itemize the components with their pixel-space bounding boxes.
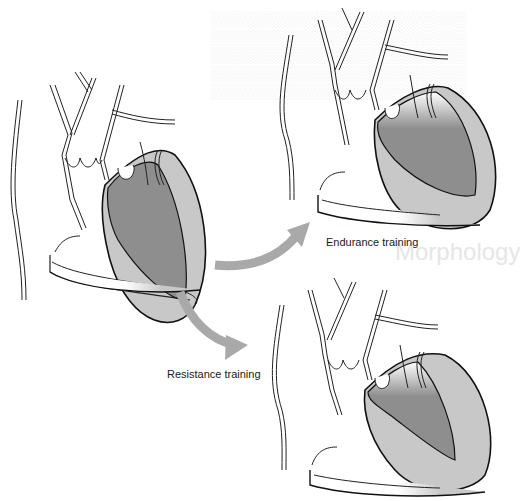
heart-endurance <box>280 8 496 229</box>
heart-resistance <box>272 278 490 496</box>
curved-arrow-up-right-icon <box>215 222 310 266</box>
label-resistance-training: Resistance training <box>167 368 261 380</box>
label-endurance-training: Endurance training <box>326 236 418 248</box>
heart-baseline <box>11 72 205 322</box>
